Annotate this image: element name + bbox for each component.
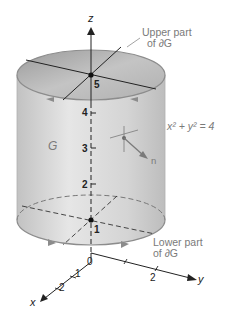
x-axis-label: x	[29, 296, 36, 308]
normal-label: n	[151, 155, 156, 166]
z-axis-arrowhead	[87, 27, 95, 35]
y-tick-label-2: 2	[150, 272, 156, 283]
z-tick-label-5: 5	[94, 79, 100, 90]
x-axis-arrowhead	[40, 294, 48, 302]
origin-label: 0	[87, 256, 93, 267]
z-axis-label: z	[87, 12, 94, 24]
bottom-center-point	[88, 217, 93, 222]
lower-part-label-line2: of ∂G	[153, 247, 178, 259]
region-label-G: G	[48, 139, 57, 153]
cylinder-diagram: z Upper part of ∂G 5 4 3 2 1 G x² + y² =…	[0, 0, 233, 312]
upper-label-leader	[127, 38, 140, 47]
z-tick-label-3: 3	[82, 143, 88, 154]
z-tick-label-1: 1	[94, 224, 100, 235]
x-tick-label-2: 2	[59, 282, 65, 293]
x-tick-label-1: 1	[75, 268, 81, 279]
upper-part-label-line2: of ∂G	[147, 37, 172, 49]
z-tick-label-4: 4	[82, 107, 88, 118]
equation-label: x² + y² = 4	[166, 120, 214, 132]
z-tick-label-2: 2	[82, 179, 88, 190]
y-axis-label: y	[197, 273, 205, 285]
x-axis	[45, 262, 91, 298]
top-center-point	[88, 72, 93, 77]
y-axis-arrowhead	[187, 274, 197, 281]
